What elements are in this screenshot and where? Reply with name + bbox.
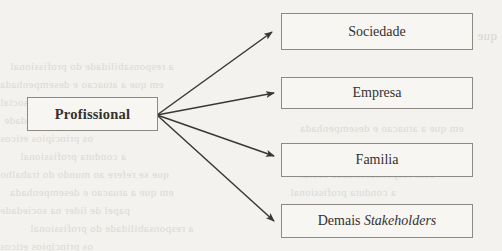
node-empresa: Empresa: [281, 77, 473, 109]
node-familia: Familia: [281, 143, 473, 177]
node-profissional-label: Profissional: [55, 107, 130, 122]
node-demais-stakeholders: Demais Stakeholders: [281, 204, 473, 238]
node-sociedade-label: Sociedade: [348, 25, 406, 39]
node-empresa-label: Empresa: [353, 86, 402, 100]
arrow-profissional-to-empresa: [157, 93, 274, 115]
arrow-profissional-to-sociedade: [157, 32, 272, 115]
arrow-profissional-to-demais-stakeholders: [157, 115, 274, 221]
diagram-canvas: que se refere ao mundo do trabalho a res…: [0, 0, 502, 251]
node-sociedade: Sociedade: [281, 13, 473, 50]
arrow-profissional-to-familia: [157, 115, 274, 156]
node-profissional: Profissional: [27, 97, 158, 131]
node-demais-stakeholders-label: Demais Stakeholders: [318, 214, 437, 228]
node-stakeholders-italic: Stakeholders: [364, 213, 436, 228]
node-familia-label: Familia: [356, 153, 399, 167]
node-demais-prefix: Demais: [318, 213, 364, 228]
